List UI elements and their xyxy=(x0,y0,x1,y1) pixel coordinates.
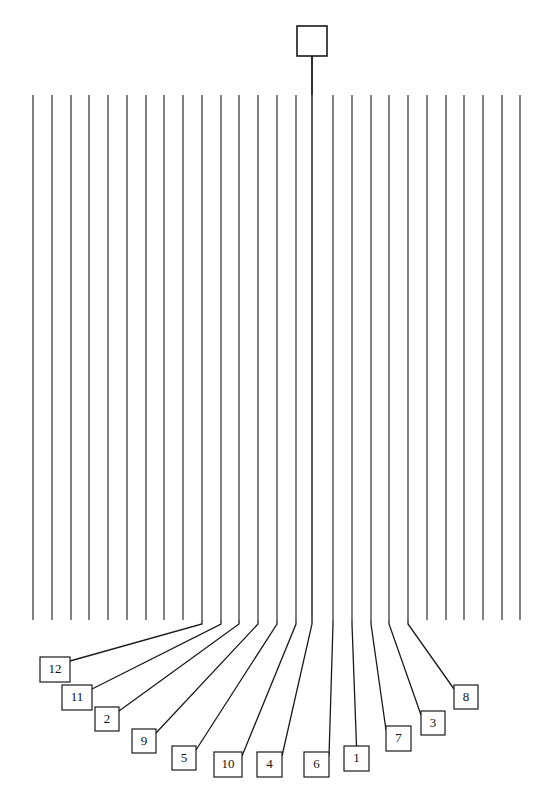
leaf-label-text-1: 1 xyxy=(353,750,360,765)
leaf-label-text-4: 4 xyxy=(266,756,273,771)
leaf-label-text-7: 7 xyxy=(395,730,402,745)
root-node-group xyxy=(297,26,327,95)
leader-line-5 xyxy=(196,620,277,750)
leader-line-7 xyxy=(371,620,386,730)
leaf-label-text-10: 10 xyxy=(222,756,235,771)
leaf-label-8[interactable]: 8 xyxy=(454,685,478,709)
leader-line-6 xyxy=(329,620,333,756)
dendrogram-diagram: 121129510461738 xyxy=(0,0,553,803)
leader-line-11 xyxy=(92,620,221,689)
leaf-label-text-12: 12 xyxy=(49,661,62,676)
leaf-label-text-8: 8 xyxy=(463,689,470,704)
leaf-label-text-11: 11 xyxy=(71,689,84,704)
leaf-label-7[interactable]: 7 xyxy=(386,726,411,751)
leaf-label-10[interactable]: 10 xyxy=(214,752,242,777)
leader-line-4 xyxy=(282,620,312,756)
leaf-label-text-2: 2 xyxy=(104,711,111,726)
leaf-label-text-5: 5 xyxy=(181,750,188,765)
label-box-group: 121129510461738 xyxy=(40,657,478,777)
leader-line-12 xyxy=(70,620,202,661)
leaf-label-text-9: 9 xyxy=(141,733,148,748)
leaf-label-12[interactable]: 12 xyxy=(40,657,70,682)
root-box[interactable] xyxy=(297,26,327,56)
leaf-label-4[interactable]: 4 xyxy=(257,752,282,777)
dendrogram-canvas: 121129510461738 xyxy=(0,0,553,803)
leader-line-10 xyxy=(242,620,296,756)
trunk-line-group xyxy=(33,56,520,620)
leaf-label-6[interactable]: 6 xyxy=(304,752,329,777)
leaf-label-9[interactable]: 9 xyxy=(132,729,156,753)
leaf-label-1[interactable]: 1 xyxy=(344,746,369,771)
leaf-label-2[interactable]: 2 xyxy=(95,707,119,731)
leaf-label-text-3: 3 xyxy=(430,715,437,730)
leader-line-3 xyxy=(389,620,421,715)
leader-line-1 xyxy=(352,620,357,746)
leaf-label-3[interactable]: 3 xyxy=(421,711,445,735)
leader-line-2 xyxy=(119,620,239,711)
leaf-label-11[interactable]: 11 xyxy=(62,685,92,710)
leaf-label-text-6: 6 xyxy=(313,756,320,771)
leader-line-8 xyxy=(408,620,454,689)
leaf-label-5[interactable]: 5 xyxy=(172,746,196,770)
